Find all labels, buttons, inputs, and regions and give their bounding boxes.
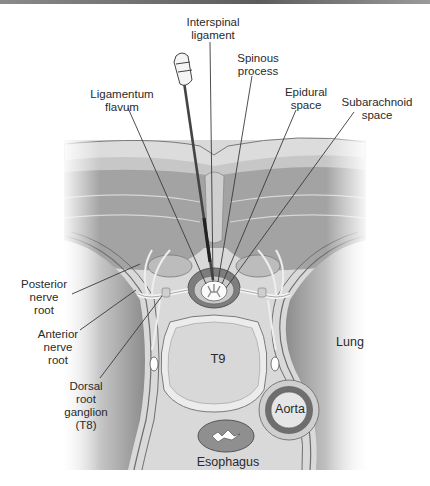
needle-hub <box>174 53 192 85</box>
label-vertebral-body: T9 <box>204 352 232 365</box>
label-posterior-nerve-root: Posterior nerve root <box>14 278 74 317</box>
label-interspinal-ligament: Interspinal ligament <box>178 16 248 42</box>
label-aorta: Aorta <box>272 403 308 416</box>
right-sympathetic-ganglion <box>271 357 279 371</box>
label-lung: Lung <box>330 336 370 349</box>
label-spinous-process: Spinous process <box>228 52 288 78</box>
label-dorsal-root-ganglion: Dorsal root ganglion (T8) <box>56 380 116 432</box>
label-subarachnoid-space: Subarachnoid space <box>332 96 422 122</box>
right-drg <box>258 288 266 297</box>
left-drg <box>162 288 170 297</box>
spinous-process <box>205 172 224 243</box>
label-esophagus: Esophagus <box>190 456 266 469</box>
label-anterior-nerve-root: Anterior nerve root <box>28 328 88 367</box>
left-sympathetic-ganglion <box>150 357 158 371</box>
left-transverse-process <box>148 255 192 277</box>
label-epidural-space: Epidural space <box>276 86 336 112</box>
label-ligamentum-flavum: Ligamentum flavum <box>80 88 164 114</box>
right-transverse-process <box>236 255 280 277</box>
